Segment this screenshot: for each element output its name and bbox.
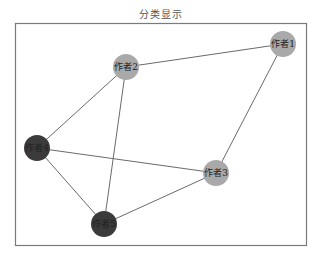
edge-4-3: [37, 148, 216, 173]
edge-2-1: [126, 44, 283, 67]
edge-3-5: [104, 173, 216, 224]
node-5[interactable]: 作者5: [91, 211, 117, 237]
plot-frame: [16, 24, 307, 246]
node-1[interactable]: 作者1: [270, 31, 296, 57]
node-3[interactable]: 作者3: [203, 160, 229, 186]
node-label: 作者1: [271, 38, 295, 49]
node-2[interactable]: 作者2: [113, 54, 139, 80]
node-label: 作者5: [92, 218, 116, 229]
edge-1-3: [216, 44, 283, 173]
edges-layer: [37, 44, 283, 224]
edge-2-4: [37, 67, 126, 148]
node-label: 作者3: [204, 167, 228, 178]
edge-4-5: [37, 148, 104, 224]
network-graph: 作者1作者2作者3作者4作者5: [0, 0, 321, 256]
node-4[interactable]: 作者4: [24, 135, 50, 161]
edge-2-5: [104, 67, 126, 224]
node-label: 作者4: [25, 142, 49, 153]
node-label: 作者2: [114, 61, 138, 72]
